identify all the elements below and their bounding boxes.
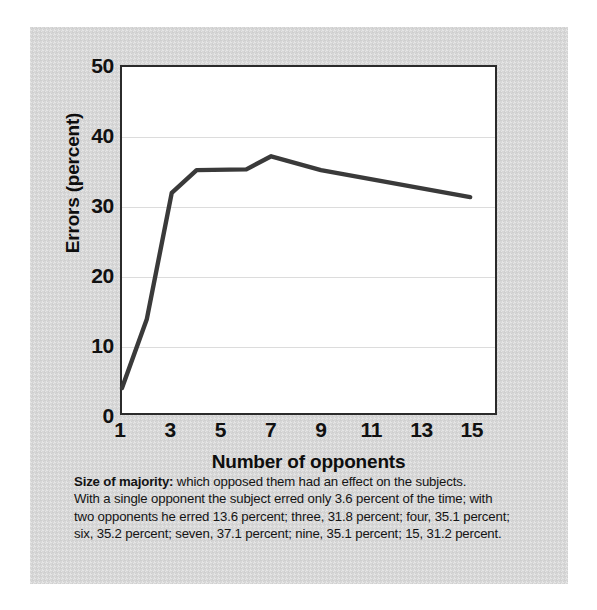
x-axis-tick-labels: 13579111315: [120, 419, 497, 447]
x-tick-label-7: 7: [265, 419, 276, 440]
series-line-errors: [122, 67, 495, 413]
x-tick-label-13: 13: [410, 419, 433, 440]
x-tick-label-11: 11: [361, 419, 383, 440]
y-tick-label-10: 10: [68, 335, 114, 356]
y-tick-label-0: 0: [68, 405, 114, 426]
x-tick-label-1: 1: [114, 419, 125, 440]
y-axis-title: Errors (percent): [62, 78, 84, 288]
figure-caption: Size of majority: which opposed them had…: [74, 473, 556, 543]
line-chart: 01020304050 13579111315 Number of oppone…: [30, 27, 568, 467]
caption-line-3: two opponents he erred 13.6 percent; thr…: [74, 508, 556, 525]
caption-line-1: Size of majority: which opposed them had…: [74, 473, 556, 490]
y-tick-label-50: 50: [68, 55, 114, 76]
figure-panel: 01020304050 13579111315 Number of oppone…: [30, 27, 568, 584]
x-tick-label-5: 5: [215, 419, 226, 440]
caption-line-4: six, 35.2 percent; seven, 37.1 percent; …: [74, 525, 556, 542]
plot-area: [120, 65, 497, 415]
x-axis-title: Number of opponents: [120, 451, 497, 473]
caption-line-2: With a single opponent the subject erred…: [74, 490, 556, 507]
caption-line-1-rest: which opposed them had an effect on the …: [173, 474, 466, 489]
figure-root: 01020304050 13579111315 Number of oppone…: [0, 0, 597, 610]
x-tick-label-3: 3: [165, 419, 176, 440]
x-tick-label-9: 9: [315, 419, 326, 440]
x-tick-label-15: 15: [460, 419, 483, 440]
caption-lead: Size of majority:: [74, 474, 173, 489]
